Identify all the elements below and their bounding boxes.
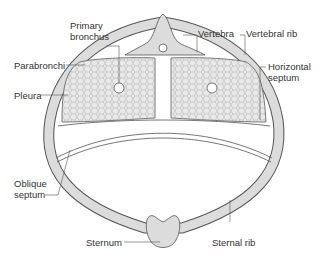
label-vertebra: Vertebra [198,28,234,39]
lung-cross-section-diagram [0,0,326,262]
label-pleura: Pleura [14,90,41,101]
label-vertebral-rib: Vertebral rib [246,28,297,39]
label-horizontal-septum-line2: septum [268,72,299,83]
label-parabronchi: Parabronchi [14,60,65,71]
label-sternum: Sternum [86,237,122,248]
label-primary-bronchus-line1: Primary [70,20,103,31]
sternum [146,216,180,248]
oblique-septum [56,133,272,158]
label-primary-bronchus-line2: bronchus [70,31,109,42]
label-oblique-septum-line2: septum [14,189,45,200]
label-oblique-septum-line1: Oblique [14,178,47,189]
label-sternal-rib: Sternal rib [212,237,255,248]
label-horizontal-septum-line1: Horizontal [268,61,311,72]
